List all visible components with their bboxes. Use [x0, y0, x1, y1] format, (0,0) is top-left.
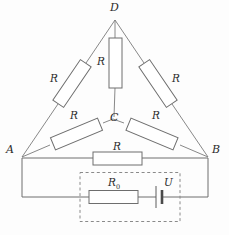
internal-resistor-label-subscript: 0 [116, 183, 120, 191]
node-label-B: B [212, 144, 220, 155]
resistor-AD-label: R [50, 73, 58, 84]
resistor-AD-body [53, 60, 91, 108]
node-label-C: C [110, 112, 118, 123]
resistor-AB-label: R [113, 141, 121, 152]
node-label-A: A [6, 144, 14, 155]
resistor-AC-body [50, 118, 102, 150]
resistor-BC-body [126, 118, 178, 150]
node-label-D: D [110, 2, 119, 13]
resistor-BD-label: R [172, 73, 180, 84]
resistor-BC-label: R [152, 110, 160, 121]
battery-symbol [156, 186, 162, 208]
internal-resistor-body [89, 191, 138, 204]
resistor-AC-label: R [70, 110, 78, 121]
resistor-DC-body [109, 38, 122, 88]
internal-resistor-label-base: R [108, 176, 116, 188]
emf-label: U [164, 177, 173, 188]
resistor-DC-label: R [97, 56, 105, 67]
circuit-diagram-figure: D A B C R R R R R R R0 U [0, 0, 229, 235]
internal-resistor-label: R0 [108, 177, 120, 191]
resistor-AB-body [93, 152, 142, 165]
